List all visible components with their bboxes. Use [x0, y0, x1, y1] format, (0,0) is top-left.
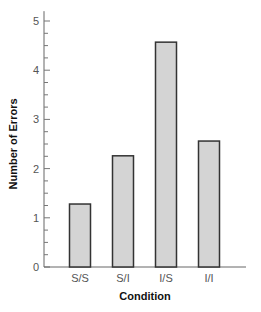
y-axis: 012345: [33, 11, 50, 273]
y-axis-title: Number of Errors: [7, 98, 19, 189]
y-tick-label: 2: [33, 163, 39, 175]
x-tick-label: S/I: [116, 272, 129, 284]
bars: [70, 42, 220, 267]
bar-i-i: [199, 141, 220, 267]
bar-s-s: [70, 204, 91, 267]
x-tick-label: S/S: [71, 272, 89, 284]
bar-chart: 012345 S/SS/II/SI/I Number of Errors Con…: [0, 0, 261, 312]
x-tick-label: I/I: [204, 272, 213, 284]
y-tick-label: 0: [33, 261, 39, 273]
chart-container: 012345 S/SS/II/SI/I Number of Errors Con…: [0, 0, 261, 312]
x-axis-title: Condition: [119, 290, 171, 302]
y-tick-label: 4: [33, 64, 39, 76]
y-tick-label: 3: [33, 113, 39, 125]
bar-s-i: [113, 156, 134, 267]
y-tick-label: 1: [33, 212, 39, 224]
y-tick-label: 5: [33, 15, 39, 27]
x-axis: S/SS/II/SI/I: [44, 267, 246, 284]
x-tick-label: I/S: [159, 272, 172, 284]
bar-i-s: [156, 42, 177, 267]
